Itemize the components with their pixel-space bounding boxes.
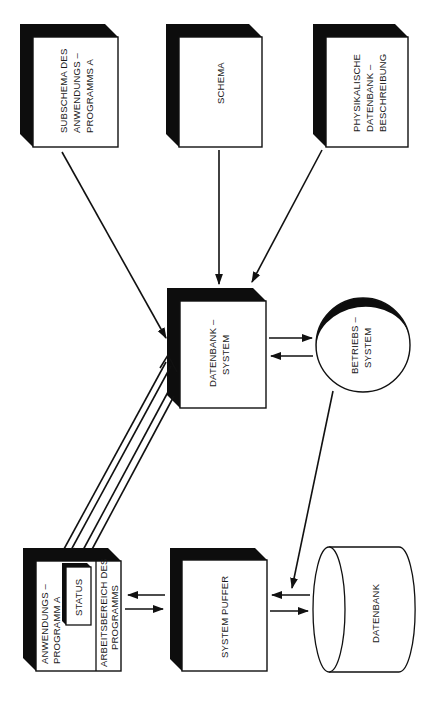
datenbank-cylinder: DATENBANK — [313, 547, 415, 672]
anwendungsprogramm-label-1: ANWENDUNGS – — [39, 583, 50, 664]
anwendungsprogramm-box: ANWENDUNGS – PROGRAMM A STATUS ARBEITSBE… — [23, 548, 121, 671]
betriebssystem-label-1: BETRIEBS – — [349, 317, 360, 374]
physikalische-beschreibung-box: PHYSIKALISCHE DATENBANK – BESCHREIBUNG — [313, 24, 408, 147]
physikalische-label-1: PHYSIKALISCHE — [351, 54, 362, 132]
betriebssystem-label-2: SYSTEM — [362, 328, 373, 368]
hollow-arrow-program-to-dbsystem — [58, 355, 177, 563]
arbeitsbereich-label-2: PROGRAMMS — [109, 585, 120, 650]
datenbank-system-box: DATENBANK – SYSTEM — [167, 288, 266, 408]
physikalische-label-3: BESCHREIBUNG — [377, 54, 388, 132]
system-puffer-box: SYSTEM PUFFER — [170, 548, 267, 671]
hollow-arrow-dbsystem-to-status — [74, 392, 174, 562]
subschema-box: SUBSCHEMA DES ANWENDUNGS – PROGRAMMS A — [20, 24, 118, 147]
schema-box: SCHEMA — [166, 24, 262, 147]
status-box: STATUS — [62, 563, 91, 625]
arrow-subschema-to-dbsystem — [62, 152, 166, 338]
datenbank-system-label-2: SYSTEM — [220, 335, 231, 375]
arbeitsbereich-label-1: ARBEITSBEREICH DES — [98, 558, 109, 667]
database-architecture-diagram: SUBSCHEMA DES ANWENDUNGS – PROGRAMMS A S… — [0, 0, 435, 705]
subschema-label-1: SUBSCHEMA DES — [58, 49, 69, 133]
status-label: STATUS — [73, 579, 84, 616]
schema-label: SCHEMA — [215, 62, 226, 104]
anwendungsprogramm-label-2: PROGRAMM A — [51, 596, 62, 664]
subschema-label-3: PROGRAMMS A — [84, 59, 95, 133]
subschema-label-2: ANWENDUNGS – — [71, 52, 82, 133]
datenbank-label: DATENBANK — [370, 583, 381, 643]
physikalische-label-2: DATENBANK – — [364, 64, 375, 132]
arrow-physikalische-to-dbsystem — [252, 150, 322, 282]
system-puffer-label: SYSTEM PUFFER — [219, 576, 230, 658]
datenbank-system-label-1: DATENBANK – — [207, 319, 218, 387]
betriebssystem-circle: BETRIEBS – SYSTEM — [310, 292, 410, 392]
